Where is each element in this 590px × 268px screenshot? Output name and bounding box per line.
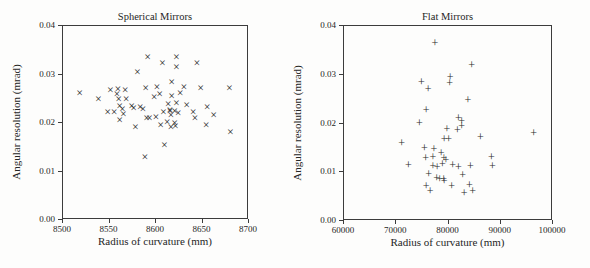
plus-marker: + [464,94,471,106]
plus-marker: + [489,160,496,172]
plus-marker: + [425,83,432,95]
y-axis-label-flat: Angular resolution (mrad) [291,65,303,180]
y-tick-label: 0.02 [312,118,336,128]
figure-canvas: Spherical Mirrors Radius of curvature (m… [0,0,590,268]
plus-marker: + [416,117,423,129]
chart-title-flat: Flat Mirrors [422,11,473,22]
flat-mirrors-chart: Flat Mirrors Radius of curvature (mm) An… [0,0,590,268]
y-tick-mark [339,220,343,221]
plus-marker: + [427,185,434,197]
plus-marker: + [448,180,455,192]
y-tick-mark [339,25,343,26]
y-tick-mark [339,74,343,75]
plus-marker: + [423,104,430,116]
plus-marker: + [432,37,439,49]
y-tick-label: 0.01 [312,166,336,176]
x-tick-mark [448,220,449,224]
y-tick-mark [339,171,343,172]
plus-marker: + [431,143,438,155]
x-axis-label-flat: Radius of curvature (mm) [391,236,505,248]
x-tick-label: 100000 [539,225,566,235]
plus-marker: + [467,160,474,172]
plus-marker: + [469,185,476,197]
y-tick-label: 0.04 [312,20,336,30]
plus-marker: + [447,71,454,83]
x-tick-label: 80000 [436,225,459,235]
y-tick-mark [339,123,343,124]
plus-marker: + [530,127,537,139]
plus-marker: + [477,131,484,143]
plus-marker: + [398,137,405,149]
y-tick-label: 0.03 [312,69,336,79]
plus-marker: + [468,59,475,71]
x-tick-label: 70000 [384,225,407,235]
plus-marker: + [459,169,466,181]
x-tick-mark [395,220,396,224]
plus-marker: + [405,159,412,171]
plus-marker: + [445,133,452,145]
x-tick-mark [500,220,501,224]
plus-marker: + [443,154,450,166]
plus-marker: + [422,152,429,164]
x-tick-label: 60000 [332,225,355,235]
x-tick-mark [552,220,553,224]
x-tick-label: 90000 [489,225,512,235]
plus-marker: + [458,120,465,132]
x-tick-mark [343,220,344,224]
plus-marker: + [441,175,448,187]
plus-marker: + [418,76,425,88]
y-tick-label: 0.00 [312,215,336,225]
